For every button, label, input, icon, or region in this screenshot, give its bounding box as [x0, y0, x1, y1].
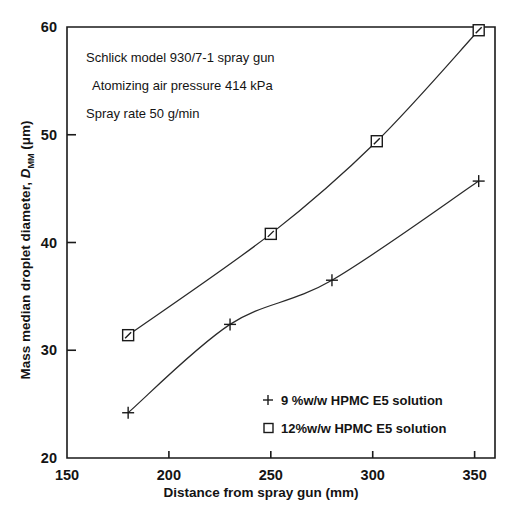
y-axis-title-symbol: D [18, 168, 33, 178]
annotation-line: Schlick model 930/7-1 spray gun [86, 50, 275, 65]
legend-square-icon [264, 424, 273, 433]
annotation-line: Spray rate 50 g/min [86, 106, 199, 121]
x-axis-title: Distance from spray gun (mm) [163, 485, 358, 500]
y-tick-label: 60 [41, 19, 57, 35]
annotation-line: Atomizing air pressure 414 kPa [92, 78, 273, 93]
legend-label: 12%w/w HPMC E5 solution [281, 421, 446, 436]
y-tick-label: 40 [41, 235, 57, 251]
x-tick-label: 250 [259, 467, 283, 483]
y-tick-label: 30 [41, 342, 57, 358]
y-axis-title-subscript: MM [26, 154, 36, 169]
x-tick-label: 150 [55, 467, 79, 483]
x-tick-label: 300 [361, 467, 385, 483]
legend-item: 12%w/w HPMC E5 solution [264, 421, 446, 436]
y-tick-label: 20 [41, 450, 57, 466]
y-axis-title-main: Mass median droplet diameter, [18, 178, 33, 379]
chart-svg: 150200250300350 2030405060 Schlick model… [0, 0, 523, 519]
y-tick-label: 50 [41, 127, 57, 143]
y-axis-title-units: (μm) [18, 121, 33, 154]
legend-item: 9 %w/w HPMC E5 solution [263, 393, 443, 408]
x-tick-label: 200 [157, 467, 181, 483]
x-tick-label: 350 [463, 467, 487, 483]
chart-figure: 150200250300350 2030405060 Schlick model… [0, 0, 523, 519]
legend-label: 9 %w/w HPMC E5 solution [281, 393, 443, 408]
